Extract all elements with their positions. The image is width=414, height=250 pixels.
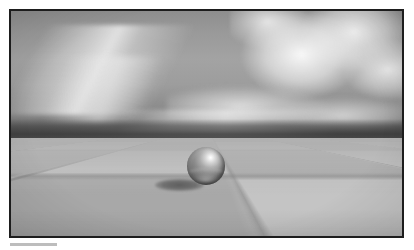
render-viewport (11, 11, 402, 236)
caption-rule (10, 243, 57, 246)
sphere-rim-shading (187, 147, 225, 185)
ground-foreground-shading (11, 210, 402, 236)
horizon-haze-band (11, 119, 402, 139)
reflective-sphere (187, 147, 225, 185)
figure-frame (9, 9, 404, 238)
